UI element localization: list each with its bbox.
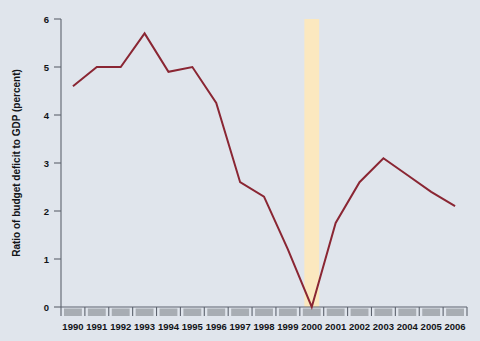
x-tick-label: 1993 [134, 321, 155, 332]
x-tick-label: 1998 [253, 321, 274, 332]
x-tick-block [183, 309, 201, 317]
y-tick-label: 6 [44, 14, 49, 25]
x-tick-label: 1999 [277, 321, 298, 332]
y-tick-label: 5 [44, 62, 50, 73]
x-tick-block [303, 309, 321, 317]
x-tick-label: 2000 [301, 321, 322, 332]
x-tick-block [327, 309, 345, 317]
x-tick-label: 2002 [349, 321, 370, 332]
x-tick-label: 2003 [373, 321, 394, 332]
y-axis-title: Ratio of budget deficit to GDP (percent) [11, 69, 22, 257]
x-tick-block [446, 309, 464, 317]
x-axis-tick-labels: 1990199119921993199419951996199719981999… [62, 321, 465, 332]
chart-background [0, 0, 480, 341]
x-tick-label: 1996 [206, 321, 227, 332]
x-tick-block [351, 309, 369, 317]
x-tick-label: 2006 [444, 321, 465, 332]
x-tick-label: 1995 [182, 321, 204, 332]
x-tick-block [398, 309, 416, 317]
year-2000-highlight-band [304, 19, 319, 307]
x-tick-block [136, 309, 154, 317]
x-tick-block [255, 309, 273, 317]
x-tick-label: 2004 [397, 321, 419, 332]
x-tick-block [112, 309, 130, 317]
x-tick-block [160, 309, 178, 317]
x-tick-block [422, 309, 440, 317]
x-tick-block [231, 309, 249, 317]
budget-deficit-gdp-line-chart: 0123456 19901991199219931994199519961997… [0, 0, 480, 341]
y-tick-label: 0 [44, 302, 49, 313]
x-tick-block [207, 309, 225, 317]
x-tick-label: 1990 [62, 321, 83, 332]
chart-container: 0123456 19901991199219931994199519961997… [0, 0, 480, 341]
x-axis-tick-blocks [64, 309, 464, 317]
x-tick-label: 2005 [421, 321, 443, 332]
x-tick-block [88, 309, 106, 317]
highlight-band-rect [304, 19, 319, 307]
x-tick-label: 1997 [230, 321, 251, 332]
x-tick-label: 1992 [110, 321, 131, 332]
x-tick-label: 1991 [86, 321, 108, 332]
x-tick-block [374, 309, 392, 317]
x-tick-label: 1994 [158, 321, 180, 332]
x-tick-block [64, 309, 82, 317]
y-tick-label: 3 [44, 158, 49, 169]
x-tick-block [279, 309, 297, 317]
y-tick-label: 4 [44, 110, 50, 121]
y-tick-label: 1 [44, 254, 50, 265]
x-tick-label: 2001 [325, 321, 347, 332]
y-tick-label: 2 [44, 206, 49, 217]
